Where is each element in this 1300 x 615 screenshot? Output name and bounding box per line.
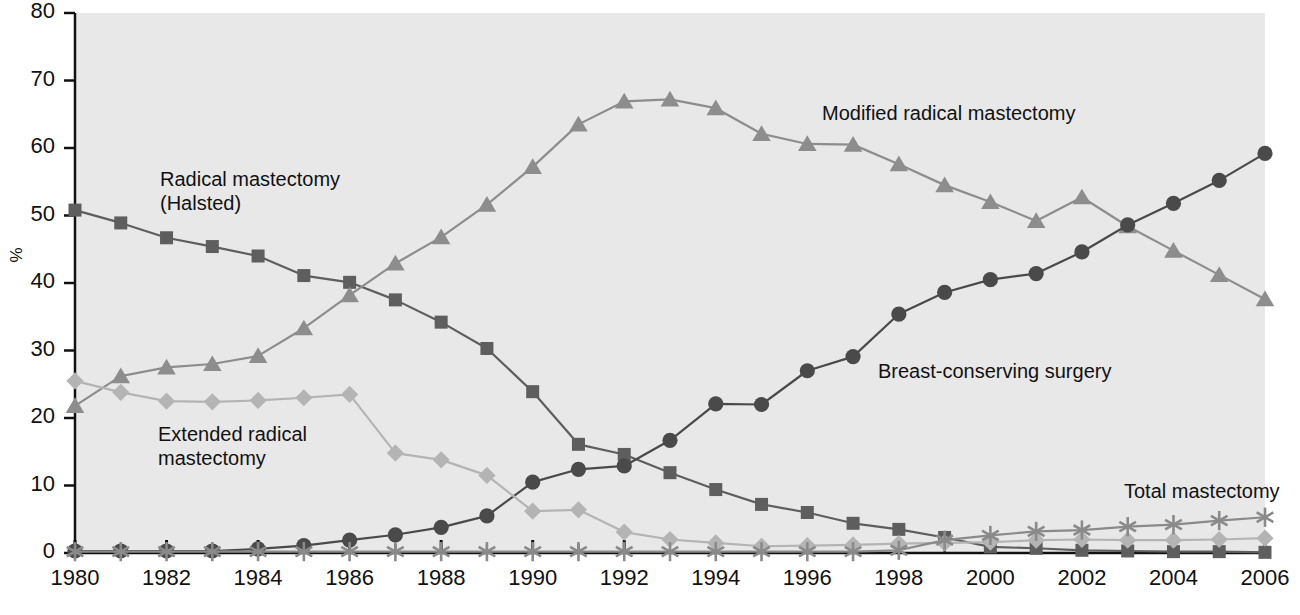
y-tick-label: 40: [9, 268, 55, 294]
data-point-marker: [616, 523, 633, 540]
data-point-marker: [252, 250, 265, 263]
x-tick-label: 2006: [1225, 565, 1300, 591]
y-tick-label: 80: [9, 0, 55, 24]
data-point-marker: [160, 231, 173, 244]
x-tick-label: 1990: [493, 565, 573, 591]
x-tick-label: 1994: [676, 565, 756, 591]
data-point-marker: [1074, 244, 1089, 259]
data-point-marker: [1120, 217, 1135, 232]
data-point-marker: [1073, 189, 1092, 205]
modified-radical-mastectomy-label: Modified radical mastectomy: [822, 102, 1075, 126]
data-point-marker: [435, 316, 448, 329]
data-point-marker: [1259, 546, 1272, 559]
x-tick-label: 1980: [35, 565, 115, 591]
data-point-marker: [525, 475, 540, 490]
data-point-marker: [340, 287, 359, 303]
data-point-marker: [158, 393, 175, 410]
x-tick-label: 2002: [1042, 565, 1122, 591]
x-tick-label: 2000: [950, 565, 1030, 591]
data-point-marker: [572, 438, 585, 451]
data-point-marker: [479, 508, 494, 523]
data-point-marker: [249, 347, 268, 363]
y-tick-label: 20: [9, 403, 55, 429]
x-tick-label: 2004: [1133, 565, 1213, 591]
data-point-marker: [69, 204, 82, 217]
data-point-marker: [297, 269, 310, 282]
data-point-marker: [432, 229, 451, 245]
y-tick-label: 0: [9, 538, 55, 564]
y-axis-title: %: [7, 240, 27, 270]
data-point-marker: [249, 392, 266, 409]
y-tick-label: 50: [9, 201, 55, 227]
data-point-marker: [890, 156, 909, 172]
x-tick-label: 1996: [767, 565, 847, 591]
data-point-marker: [206, 240, 219, 253]
data-point-marker: [295, 320, 314, 336]
data-point-marker: [66, 372, 83, 389]
data-point-marker: [1256, 291, 1275, 307]
x-tick-label: 1982: [127, 565, 207, 591]
data-point-marker: [386, 255, 405, 271]
data-point-marker: [937, 285, 952, 300]
data-point-marker: [892, 523, 905, 536]
data-point-marker: [617, 458, 632, 473]
x-tick-label: 1988: [401, 565, 481, 591]
data-point-marker: [114, 216, 127, 229]
y-tick-label: 30: [9, 336, 55, 362]
extended-radical-mastectomy-label: Extended radical mastectomy: [158, 423, 307, 470]
data-point-marker: [708, 396, 723, 411]
data-point-marker: [1257, 146, 1272, 161]
data-point-marker: [480, 342, 493, 355]
data-point-marker: [571, 462, 586, 477]
data-point-marker: [755, 498, 768, 511]
data-point-marker: [569, 116, 588, 132]
data-point-marker: [1164, 242, 1183, 258]
data-point-marker: [1212, 173, 1227, 188]
data-point-marker: [847, 517, 860, 530]
data-point-marker: [434, 520, 449, 535]
x-tick-label: 1984: [218, 565, 298, 591]
data-point-marker: [935, 177, 954, 193]
data-point-marker: [845, 349, 860, 364]
radical-mastectomy-label: Radical mastectomy (Halsted): [160, 168, 340, 215]
breast-conserving-surgery-label: Breast-conserving surgery: [878, 360, 1111, 384]
data-point-marker: [526, 385, 539, 398]
data-point-marker: [204, 393, 221, 410]
data-point-marker: [295, 389, 312, 406]
data-point-marker: [66, 397, 85, 413]
data-point-marker: [1166, 196, 1181, 211]
data-point-marker: [801, 506, 814, 519]
y-tick-label: 10: [9, 471, 55, 497]
data-point-marker: [752, 125, 771, 141]
data-point-marker: [1256, 530, 1273, 547]
total-mastectomy-label: Total mastectomy: [1124, 480, 1280, 504]
data-point-marker: [570, 501, 587, 518]
y-tick-label: 70: [9, 66, 55, 92]
x-tick-label: 1986: [310, 565, 390, 591]
data-point-marker: [981, 193, 1000, 209]
chart-figure: 01020304050607080 1980198219841986198819…: [0, 0, 1300, 615]
data-point-marker: [433, 451, 450, 468]
data-point-marker: [709, 483, 722, 496]
data-point-marker: [388, 527, 403, 542]
data-point-marker: [664, 466, 677, 479]
data-point-marker: [662, 433, 677, 448]
series-layer: [66, 91, 1275, 561]
chart-canvas: [0, 0, 1300, 615]
y-tick-label: 60: [9, 133, 55, 159]
data-point-marker: [389, 293, 402, 306]
data-point-marker: [1210, 266, 1229, 282]
data-point-marker: [1027, 212, 1046, 228]
x-tick-label: 1998: [859, 565, 939, 591]
data-point-marker: [800, 363, 815, 378]
data-point-marker: [891, 306, 906, 321]
data-point-marker: [983, 272, 998, 287]
x-tick-label: 1992: [584, 565, 664, 591]
data-point-marker: [754, 397, 769, 412]
data-point-marker: [112, 384, 129, 401]
data-point-marker: [1029, 266, 1044, 281]
